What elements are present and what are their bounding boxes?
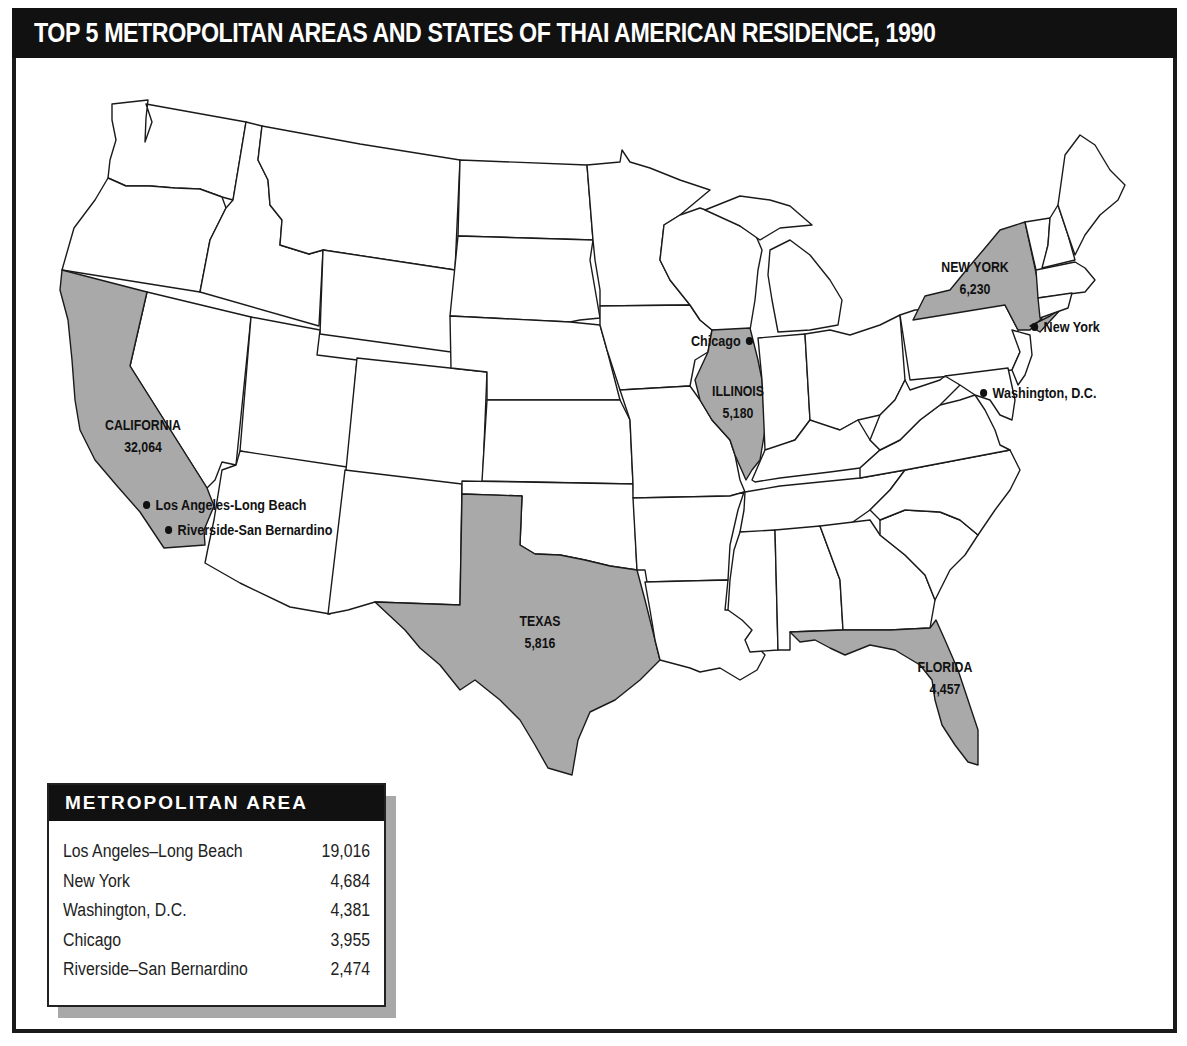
legend-row: New York 4,684 [63,867,370,897]
city-dot-icon [980,389,987,397]
state-maine [1058,135,1125,255]
legend-row: Riverside–San Bernardino 2,474 [63,955,370,985]
city-chicago: Chicago [691,333,753,349]
state-washington [108,100,246,200]
state-south-dakota [450,236,600,322]
city-washington-dc: Washington, D.C. [980,385,1096,401]
legend-row: Washington, D.C. 4,381 [63,896,370,926]
city-dot-icon [165,526,172,534]
state-new-mexico [328,470,462,614]
state-kansas [482,400,633,484]
city-dot-icon [143,501,150,509]
state-label-texas: TEXAS 5,816 [496,610,584,654]
legend-row: Los Angeles–Long Beach 19,016 [63,837,370,867]
city-dot-icon [746,337,753,345]
state-oregon [62,178,226,292]
legend-rows: Los Angeles–Long Beach 19,016 New York 4… [49,821,384,985]
state-label-california: CALIFORNIA 32,064 [95,414,192,458]
city-new-york: New York [1031,319,1100,335]
state-arkansas [633,492,744,582]
state-utah [240,317,357,472]
metro-legend: METROPOLITAN AREA Los Angeles–Long Beach… [47,783,386,1007]
city-los-angeles: Los Angeles-Long Beach [143,497,306,513]
state-label-illinois: ILLINOIS 5,180 [694,380,782,424]
legend-row: Chicago 3,955 [63,926,370,956]
city-dot-icon [1031,323,1038,331]
state-label-new-york: NEW YORK 6,230 [927,256,1024,300]
state-north-dakota [458,160,593,240]
state-label-florida: FLORIDA 4,457 [901,656,989,700]
city-riverside: Riverside-San Bernardino [165,522,332,538]
legend-header: METROPOLITAN AREA [49,785,384,821]
